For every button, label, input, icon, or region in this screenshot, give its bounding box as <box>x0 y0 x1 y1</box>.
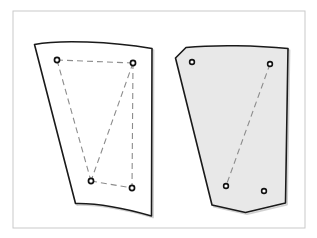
hole-marker[interactable] <box>88 178 95 185</box>
hole-center <box>262 189 265 192</box>
hole-center <box>190 60 193 63</box>
figure-root <box>0 0 317 238</box>
hole-center <box>131 61 134 64</box>
hole-center <box>224 184 227 187</box>
hole-marker[interactable] <box>261 188 267 194</box>
hole-center <box>89 179 92 182</box>
panel-diagram-svg <box>0 0 317 238</box>
hole-marker[interactable] <box>267 61 273 67</box>
hole-center <box>130 186 133 189</box>
hole-center <box>268 62 271 65</box>
hole-marker[interactable] <box>130 60 137 67</box>
hole-marker[interactable] <box>223 183 229 189</box>
hole-marker[interactable] <box>189 59 195 65</box>
hole-marker[interactable] <box>129 185 136 192</box>
hole-marker[interactable] <box>54 57 61 64</box>
hole-center <box>55 58 58 61</box>
